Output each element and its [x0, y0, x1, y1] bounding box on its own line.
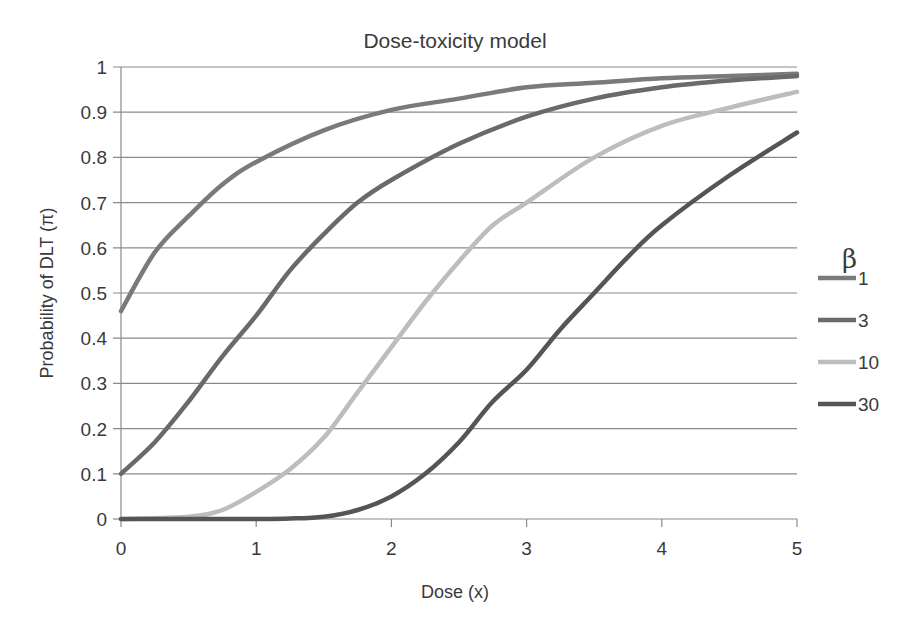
- x-axis-label: Dose (x): [421, 582, 489, 602]
- y-tick-label: 0.6: [81, 238, 107, 259]
- y-tick-label: 0.3: [81, 373, 107, 394]
- y-tick-label: 0.8: [81, 147, 107, 168]
- x-tick-label: 0: [116, 538, 127, 559]
- y-tick-label: 0.7: [81, 193, 107, 214]
- y-tick-label: 0: [96, 509, 107, 530]
- y-tick-label: 0.4: [81, 328, 108, 349]
- y-axis-label: Probability of DLT (π): [37, 208, 57, 379]
- y-tick-label: 0.5: [81, 283, 107, 304]
- chart-container: 00.10.20.30.40.50.60.70.80.91012345 Dose…: [0, 0, 908, 632]
- legend-label: 1: [858, 268, 869, 289]
- legend: β 131030: [818, 244, 879, 415]
- series-line-beta-1: [121, 74, 797, 311]
- data-series: [121, 74, 797, 519]
- legend-label: 10: [858, 352, 879, 373]
- y-tick-label: 1: [96, 57, 107, 78]
- legend-title: β: [842, 244, 857, 274]
- line-chart: 00.10.20.30.40.50.60.70.80.91012345 Dose…: [0, 0, 908, 632]
- gridlines: [113, 67, 797, 474]
- chart-title: Dose-toxicity model: [363, 29, 546, 52]
- y-tick-label: 0.1: [81, 464, 107, 485]
- series-line-beta-10: [121, 92, 797, 519]
- series-line-beta-30: [121, 133, 797, 520]
- legend-label: 3: [858, 310, 869, 331]
- legend-item-beta-30: 30: [818, 394, 879, 415]
- series-line-beta-3: [121, 76, 797, 474]
- legend-item-beta-10: 10: [818, 352, 879, 373]
- tick-labels: 00.10.20.30.40.50.60.70.80.91012345: [81, 57, 803, 559]
- legend-item-beta-3: 3: [818, 310, 869, 331]
- x-tick-label: 1: [251, 538, 262, 559]
- x-tick-label: 3: [521, 538, 532, 559]
- axes: [113, 67, 797, 527]
- legend-label: 30: [858, 394, 879, 415]
- y-tick-label: 0.2: [81, 419, 107, 440]
- x-tick-label: 4: [657, 538, 668, 559]
- y-tick-label: 0.9: [81, 102, 107, 123]
- x-tick-label: 5: [792, 538, 803, 559]
- x-tick-label: 2: [386, 538, 397, 559]
